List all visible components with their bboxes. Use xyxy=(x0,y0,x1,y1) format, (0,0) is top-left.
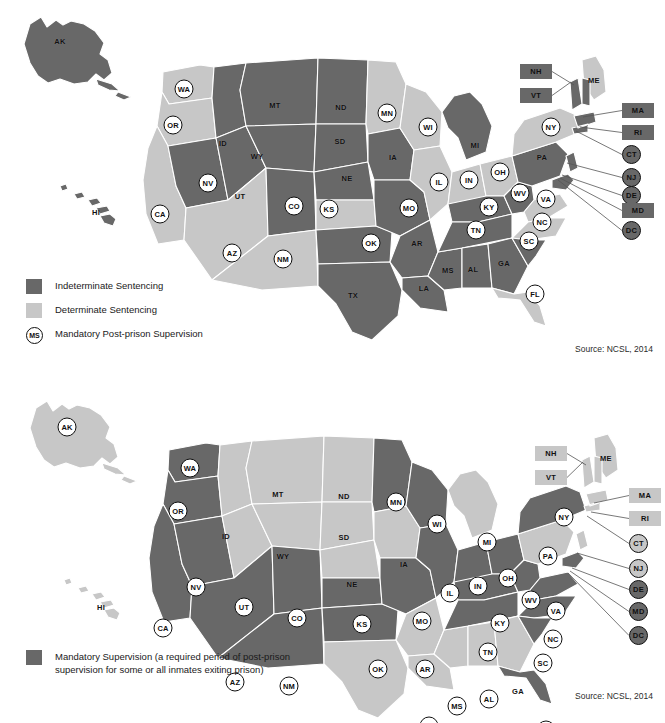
legend-bottom: Mandatory Supervision (a required period… xyxy=(26,650,316,685)
figure-page: AKHIWAORCANVIDUTAZMTWYCONMNDSDNEKSOKTXMN… xyxy=(0,0,665,723)
callout-RI[interactable]: RI xyxy=(622,125,654,140)
callout-DE[interactable]: DE xyxy=(629,580,648,599)
callout-RI[interactable]: RI xyxy=(629,511,661,526)
callout-NJ[interactable]: NJ xyxy=(622,168,641,187)
callout-CT[interactable]: CT xyxy=(622,145,641,164)
legend-label-indeterminate: Indeterminate Sentencing xyxy=(55,279,163,293)
legend-swatch-determinate xyxy=(26,303,42,318)
legend-label-mandatory-supervision: Mandatory Post-prison Supervision xyxy=(55,327,203,341)
callout-VT[interactable]: VT xyxy=(535,470,567,485)
legend-top: Indeterminate Sentencing Determinate Sen… xyxy=(26,279,203,353)
mandatory-supervision-map-panel: AKHIWAORCANVIDUTAZMTWYCONMNDSDNEKSOKTXMN… xyxy=(0,362,665,723)
legend-swatch-indeterminate xyxy=(26,279,42,294)
legend-item: Determinate Sentencing xyxy=(26,303,203,318)
callout-DC[interactable]: DC xyxy=(629,626,648,645)
source-note-bottom: Source: NCSL, 2014 xyxy=(575,691,653,701)
callout-MA[interactable]: MA xyxy=(629,488,661,503)
legend-item: Mandatory Supervision (a required period… xyxy=(26,650,316,676)
callout-MA[interactable]: MA xyxy=(622,103,654,118)
legend-circle-glyph: MS xyxy=(29,332,40,339)
source-note-top: Source: NCSL, 2014 xyxy=(575,344,653,354)
callout-NJ[interactable]: NJ xyxy=(629,559,648,578)
callout-MD[interactable]: MD xyxy=(622,203,654,218)
callout-NH[interactable]: NH xyxy=(520,64,552,79)
legend-label-mandatory-supervision: Mandatory Supervision (a required period… xyxy=(55,650,316,676)
legend-label-determinate: Determinate Sentencing xyxy=(55,303,157,317)
legend-item: Indeterminate Sentencing xyxy=(26,279,203,294)
legend-item: MS Mandatory Post-prison Supervision xyxy=(26,327,203,344)
callout-CT[interactable]: CT xyxy=(629,534,648,553)
callout-NH[interactable]: NH xyxy=(535,446,567,461)
callout-DC[interactable]: DC xyxy=(622,221,641,240)
legend-swatch-mandatory-supervision xyxy=(26,650,42,665)
callout-VT[interactable]: VT xyxy=(520,88,552,103)
sentencing-map-panel: AKHIWAORCANVIDUTAZMTWYCONMNDSDNEKSOKTXMN… xyxy=(0,0,665,362)
legend-circle-icon: MS xyxy=(26,327,43,344)
callout-MD[interactable]: MD xyxy=(629,602,648,621)
